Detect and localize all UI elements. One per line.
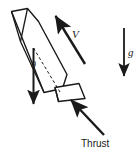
diagram-canvas <box>0 0 140 153</box>
gravity-label: g <box>128 47 134 58</box>
angle-theta-label: θ <box>31 60 36 70</box>
thrust-label: Thrust <box>81 139 109 149</box>
velocity-vector <box>56 16 86 64</box>
velocity-label: V <box>72 29 79 40</box>
rocket-fin <box>55 84 85 102</box>
thrust-vector <box>71 100 104 135</box>
rocket-free-body-diagram: V g θ Thrust <box>0 0 140 153</box>
